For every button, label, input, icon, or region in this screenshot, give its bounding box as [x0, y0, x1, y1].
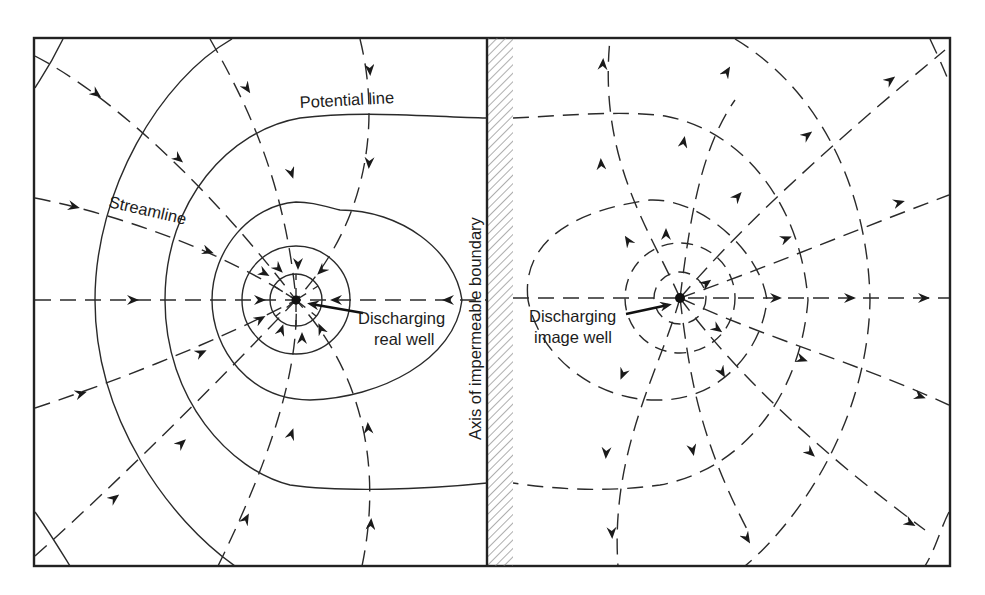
- image-well-flow-net: [513, 39, 949, 566]
- potential-line-4: [165, 114, 487, 489]
- real-well-label-line2: real well: [374, 330, 435, 348]
- image-well-point: [675, 293, 685, 303]
- image-streamline-lower-3: [680, 298, 925, 530]
- image-streamline-lower-4: [680, 298, 949, 405]
- streamline-arrows-right: [601, 62, 926, 540]
- image-well-pointer: [626, 305, 668, 314]
- image-streamline-upper-4: [680, 195, 949, 298]
- image-potential-line-6: [930, 39, 949, 82]
- image-streamline-upper-2: [680, 100, 735, 298]
- image-potential-line-7: [925, 512, 949, 566]
- potential-line-7: [35, 512, 70, 566]
- streamline-label: Streamline: [107, 192, 188, 227]
- potential-line-label: Potential line: [299, 88, 394, 111]
- image-well-label-line1: Discharging: [529, 307, 616, 325]
- potential-line-3: [212, 202, 462, 400]
- real-well-flow-net: [35, 39, 487, 566]
- streamline-arrows-left: [60, 58, 462, 536]
- streamline-lower-2: [35, 300, 296, 556]
- image-streamline-upper-1: [608, 39, 680, 298]
- streamline-upper-2: [210, 39, 296, 300]
- image-well-label-line2: image well: [534, 328, 612, 346]
- image-potential-line-4: [513, 113, 808, 489]
- real-well-point: [292, 296, 301, 305]
- flow-net-diagram: Potential line Streamline Discharging re…: [0, 0, 985, 595]
- real-well-label-line1: Discharging: [358, 309, 445, 327]
- image-potential-line-5: [735, 39, 870, 566]
- image-streamline-lower-2: [680, 298, 750, 535]
- boundary-axis-label: Axis of impermeable boundary: [466, 216, 484, 440]
- impermeable-boundary-hatch: [488, 38, 513, 566]
- image-streamline-lower-1: [617, 298, 680, 566]
